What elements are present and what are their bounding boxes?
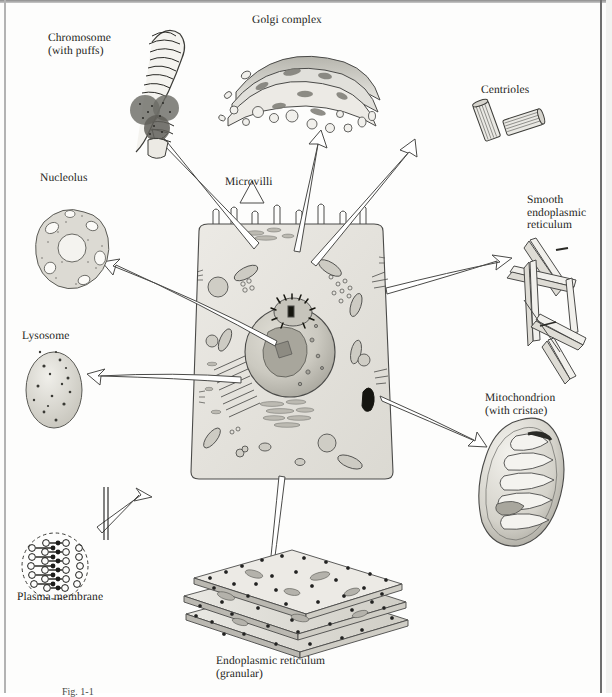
- nucleolus-illustration: [36, 210, 109, 289]
- plasma-membrane-illustration: [22, 487, 108, 599]
- chromosome-illustration: [130, 30, 185, 158]
- label-lysosome: Lysosome: [22, 330, 69, 343]
- label-nucleolus: Nucleolus: [40, 172, 88, 185]
- granular-er-illustration: [184, 550, 408, 658]
- smooth-er-illustration: [507, 238, 586, 384]
- label-mitochondrion: Mitochondrion (with cristae): [485, 392, 555, 417]
- label-golgi-complex: Golgi complex: [252, 14, 322, 27]
- central-cell: [191, 204, 393, 479]
- mitochondrion-illustration: [479, 418, 564, 546]
- label-chromosome: Chromosome (with puffs): [48, 32, 111, 57]
- lysosome-illustration: [26, 351, 82, 428]
- centrioles-illustration: [472, 98, 546, 142]
- label-granular-endoplasmic-reticulum: Endoplasmic reticulum (granular): [216, 655, 325, 680]
- figure-caption: Fig. 1-1: [62, 686, 94, 697]
- label-plasma-membrane: Plasma membrane: [17, 591, 103, 604]
- label-microvilli: Microvilli: [225, 176, 273, 189]
- label-smooth-endoplasmic-reticulum: Smooth endoplasmic reticulum: [527, 194, 586, 232]
- golgi-illustration: [218, 56, 380, 132]
- label-centrioles: Centrioles: [481, 84, 529, 97]
